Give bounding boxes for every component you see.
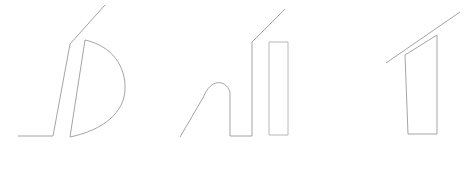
sketch-canvas[interactable] (0, 0, 465, 189)
canvas-background (0, 0, 465, 189)
sketch-drawing-surface[interactable] (0, 0, 465, 189)
